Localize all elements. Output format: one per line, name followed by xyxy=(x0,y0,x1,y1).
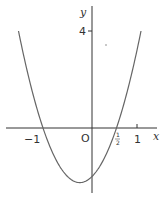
x-tick-label-half-num: 1 xyxy=(116,131,120,138)
x-tick-label-1: 1 xyxy=(134,133,141,146)
y-tick-label-4: 4 xyxy=(79,25,86,38)
x-axis-label: x xyxy=(153,130,160,143)
x-tick-label-half-den: 2 xyxy=(116,139,120,146)
x-tick-label-neg1: −1 xyxy=(24,133,40,146)
y-axis-label: y xyxy=(79,6,87,19)
parabola-chart: y 4 −1 O 1 2 1 x xyxy=(0,0,166,205)
parabola-curve xyxy=(19,31,142,183)
origin-label: O xyxy=(81,132,90,145)
